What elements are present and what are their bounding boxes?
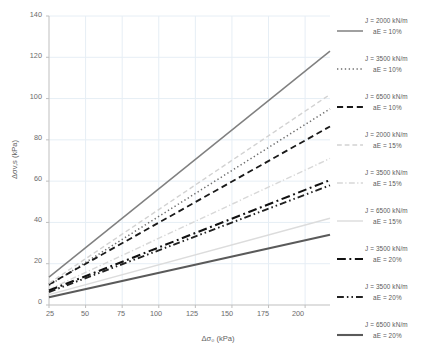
legend-entry[interactable]: J = 3500 kN/maE = 10% xyxy=(337,54,441,84)
legend-swatch-icon xyxy=(337,250,363,260)
x-tick-label: 50 xyxy=(72,309,98,318)
legend-label: J = 6500 kN/maE = 20% xyxy=(365,320,441,341)
legend-swatch-icon xyxy=(337,136,363,146)
legend-entry[interactable]: J = 3500 kN/maE = 20% xyxy=(337,244,441,274)
legend-label-line2: aE = 20% xyxy=(365,293,441,304)
legend-label: J = 2000 kN/maE = 10% xyxy=(365,16,441,37)
legend-label: J = 6500 kN/maE = 15% xyxy=(365,206,441,227)
legend-swatch-icon xyxy=(337,288,363,298)
plot-background xyxy=(49,16,330,305)
legend-label-line2: aE = 15% xyxy=(365,141,441,152)
x-tick-label: 25 xyxy=(37,309,63,318)
y-tick-label: 40 xyxy=(18,215,42,224)
legend-label: J = 3500 kN/maE = 20% xyxy=(365,244,441,265)
legend-entry[interactable]: J = 6500 kN/maE = 15% xyxy=(337,206,441,236)
y-tick-label: 0 xyxy=(18,297,42,306)
legend-swatch-icon xyxy=(337,326,363,336)
legend-entry[interactable]: J = 2000 kN/maE = 10% xyxy=(337,16,441,46)
x-tick-label: 75 xyxy=(108,309,134,318)
y-tick-label: 100 xyxy=(18,92,42,101)
legend-label: J = 2000 kN/maE = 15% xyxy=(365,130,441,151)
legend-label-line1: J = 3500 kN/m xyxy=(365,283,408,290)
legend-swatch-icon xyxy=(337,212,363,222)
y-axis-title: Δσv,s (kPa) xyxy=(10,110,19,210)
legend-swatch-icon xyxy=(337,22,363,32)
y-tick-label: 80 xyxy=(18,133,42,142)
legend-label: J = 3500 kN/maE = 10% xyxy=(365,54,441,75)
x-tick-label: 150 xyxy=(214,309,240,318)
legend-label-line2: aE = 15% xyxy=(365,217,441,228)
x-tick-label: 100 xyxy=(143,309,169,318)
legend-swatch-icon xyxy=(337,98,363,108)
y-tick-label: 120 xyxy=(18,51,42,60)
legend-swatch-icon xyxy=(337,60,363,70)
legend-label-line1: J = 3500 kN/m xyxy=(365,55,408,62)
y-tick-label: 20 xyxy=(18,256,42,265)
legend-label: J = 3500 kN/maE = 15% xyxy=(365,168,441,189)
legend-entry[interactable]: J = 3500 kN/maE = 20% xyxy=(337,282,441,312)
x-tick-label: 200 xyxy=(285,309,311,318)
legend-label-line2: aE = 10% xyxy=(365,27,441,38)
legend-label-line2: aE = 10% xyxy=(365,103,441,114)
legend-entry[interactable]: J = 3500 kN/maE = 15% xyxy=(337,168,441,198)
legend-label-line1: J = 2000 kN/m xyxy=(365,131,408,138)
x-axis-title: Δσ₀ (kPa) xyxy=(108,334,328,343)
legend-label-line1: J = 3500 kN/m xyxy=(365,169,408,176)
legend-label-line1: J = 6500 kN/m xyxy=(365,321,408,328)
y-tick-label: 60 xyxy=(18,174,42,183)
legend-swatch-icon xyxy=(337,174,363,184)
chart-figure: 0 20 40 60 80 100 120 140 25 50 75 100 1… xyxy=(0,0,441,357)
legend-entry[interactable]: J = 2000 kN/maE = 15% xyxy=(337,130,441,160)
legend-label-line2: aE = 10% xyxy=(365,65,441,76)
legend-label-line1: J = 2000 kN/m xyxy=(365,17,408,24)
x-tick-label: 175 xyxy=(250,309,276,318)
legend-entry[interactable]: J = 6500 kN/maE = 10% xyxy=(337,92,441,122)
legend-label: J = 6500 kN/maE = 10% xyxy=(365,92,441,113)
legend-label-line2: aE = 15% xyxy=(365,179,441,190)
x-tick-label: 125 xyxy=(179,309,205,318)
legend-label-line2: aE = 20% xyxy=(365,331,441,342)
legend-label-line2: aE = 20% xyxy=(365,255,441,266)
legend-label-line1: J = 3500 kN/m xyxy=(365,245,408,252)
y-tick-label: 140 xyxy=(18,10,42,19)
legend-label: J = 3500 kN/maE = 20% xyxy=(365,282,441,303)
legend-label-line1: J = 6500 kN/m xyxy=(365,207,408,214)
chart-legend: J = 2000 kN/maE = 10%J = 3500 kN/maE = 1… xyxy=(337,16,441,346)
legend-entry[interactable]: J = 6500 kN/maE = 20% xyxy=(337,320,441,350)
legend-label-line1: J = 6500 kN/m xyxy=(365,93,408,100)
